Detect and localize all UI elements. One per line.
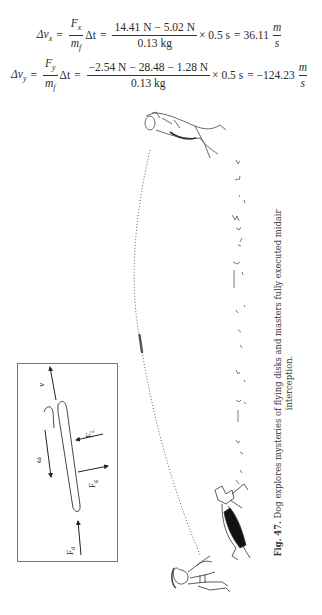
figure-caption-text: Dog explores mysteries of flying disks a… [273,210,294,519]
disk-trajectory [134,150,200,555]
force-diagram: v ω FL Fg Fd [18,364,118,562]
person-thrower-icon [172,556,230,592]
spin-label: ω [33,457,43,463]
leaping-dog-icon [145,112,226,158]
velocity-label: v [36,382,46,387]
jumping-dog-icon [215,484,250,560]
ground-line [232,160,246,484]
flying-disk-icon [140,335,143,352]
figure-caption: Fig. 47. Dog explores mysteries of flyin… [273,203,295,563]
figure-caption-label: Fig. 47. [273,521,283,556]
